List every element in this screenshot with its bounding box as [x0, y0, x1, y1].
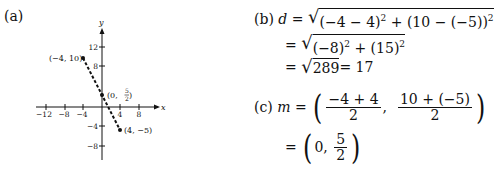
midpoint-line-1: (c) m = ( −4 + 42, 10 + (−5)2 ) [254, 90, 487, 124]
midpoint-line-2: = (0, 52 ) [285, 130, 362, 164]
svg-text:8: 8 [93, 62, 98, 71]
svg-text:12: 12 [88, 43, 98, 52]
svg-text:−8: −8 [87, 142, 98, 151]
svg-text:−12: −12 [36, 110, 52, 119]
point-label: (−4, 10) [49, 54, 82, 63]
sqrt-expression: √(−4 − 4)2 + (10 − (−5))2 [308, 8, 494, 30]
svg-text:): ) [129, 91, 132, 100]
distance-line-2: = √(−8)2 + (15)2 [285, 34, 405, 56]
svg-text:4: 4 [118, 110, 123, 119]
svg-text:(0,: (0, [107, 91, 118, 100]
distance-line-1: (b) d = √(−4 − 4)2 + (10 − (−5))2 [254, 8, 494, 30]
coordinate-graph: x y −12 −8 −4 4 8 12 8 −4 −8 (−4, 10) (4… [0, 0, 180, 169]
y-axis-label: y [98, 18, 104, 27]
y-axis-arrow-icon [100, 28, 105, 34]
point-marker [118, 128, 122, 132]
midpoint-label: (0, 5 2 ) [107, 87, 132, 102]
point-label: (4, −5) [124, 126, 152, 135]
midpoint-marker [100, 93, 104, 97]
distance-line-3: = √289 = 17 [285, 58, 373, 76]
svg-text:−4: −4 [76, 110, 87, 119]
x-axis-label: x [161, 103, 166, 112]
svg-text:8: 8 [137, 110, 142, 119]
svg-text:−4: −4 [87, 122, 98, 131]
svg-text:−8: −8 [58, 110, 69, 119]
x-axis-arrow-icon [154, 105, 160, 110]
